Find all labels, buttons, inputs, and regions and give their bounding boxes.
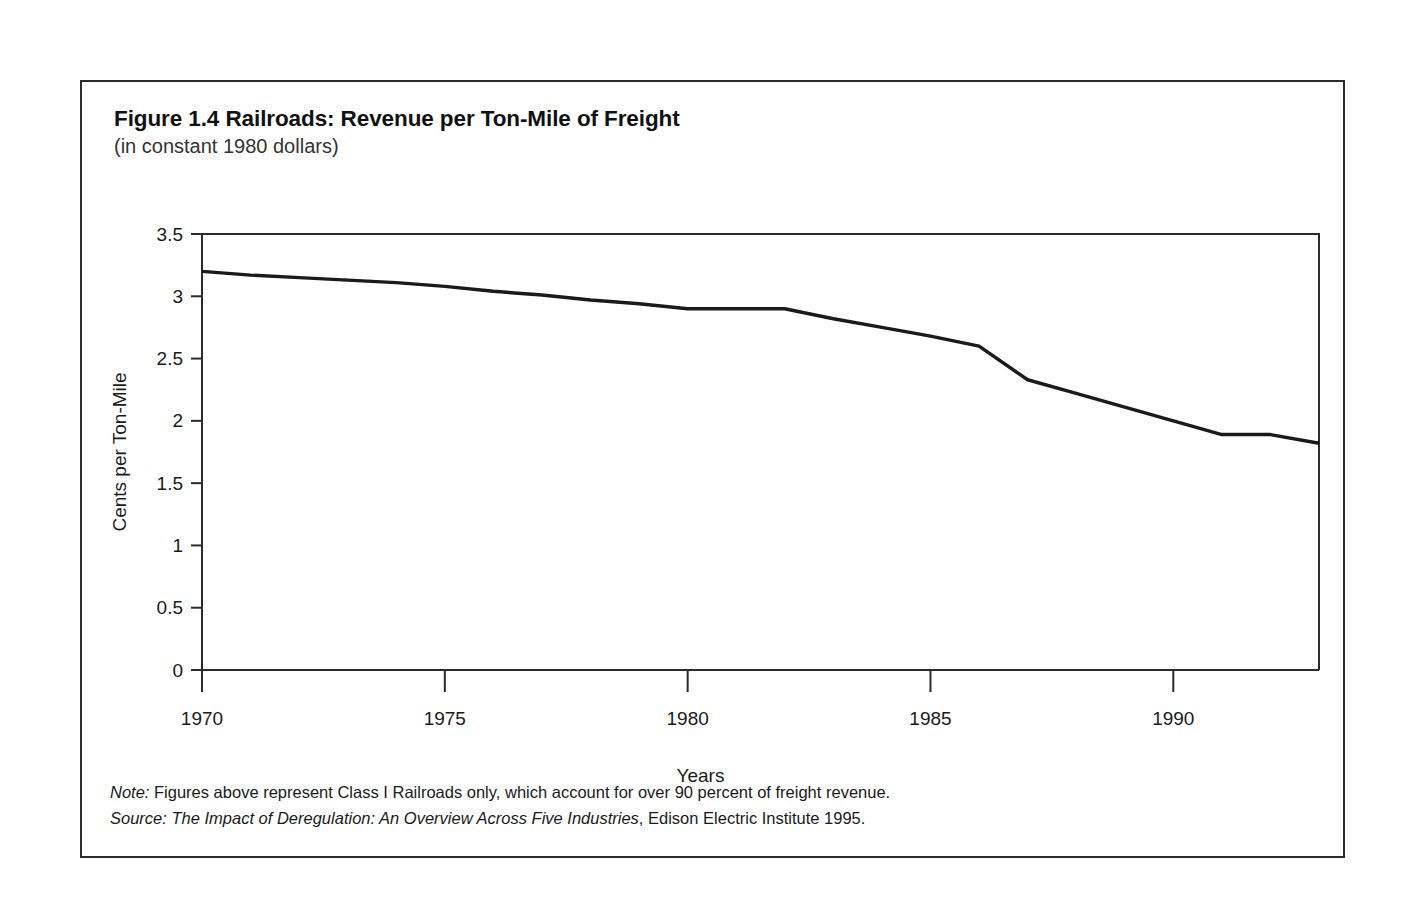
figure-frame: Figure 1.4 Railroads: Revenue per Ton-Mi… (80, 80, 1345, 858)
x-tick-label: 1980 (667, 708, 709, 729)
x-tick-label: 1975 (424, 708, 466, 729)
y-tick-label: 1.5 (157, 473, 183, 494)
source-line: Source: The Impact of Deregulation: An O… (110, 805, 1310, 832)
y-tick-label: 0 (172, 660, 183, 681)
y-tick-label: 3 (172, 286, 183, 307)
note-label: Note: (110, 783, 149, 801)
y-tick-label: 0.5 (157, 597, 183, 618)
figure-notes: Note: Figures above represent Class I Ra… (110, 779, 1310, 832)
x-tick-label: 1990 (1152, 708, 1194, 729)
y-tick-label: 2 (172, 410, 183, 431)
y-tick-label: 1 (172, 535, 183, 556)
data-series-line (202, 271, 1319, 443)
source-title: The Impact of Deregulation: An Overview … (167, 809, 639, 827)
y-tick-label: 3.5 (157, 224, 183, 245)
line-chart: 00.511.522.533.519701975198019851990Cent… (82, 82, 1347, 860)
source-label: Source: (110, 809, 167, 827)
plot-frame (202, 234, 1319, 670)
chart-plot-area: 00.511.522.533.519701975198019851990Cent… (82, 82, 1347, 860)
x-tick-label: 1985 (909, 708, 951, 729)
x-tick-label: 1970 (181, 708, 223, 729)
note-line: Note: Figures above represent Class I Ra… (110, 779, 1310, 806)
y-tick-label: 2.5 (157, 348, 183, 369)
source-rest: , Edison Electric Institute 1995. (639, 809, 866, 827)
y-axis-title: Cents per Ton-Mile (109, 372, 130, 531)
note-text: Figures above represent Class I Railroad… (149, 783, 890, 801)
